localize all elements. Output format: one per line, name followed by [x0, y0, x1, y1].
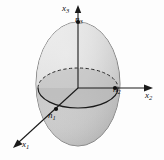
axis-label-x1: x1 [22, 140, 29, 149]
point-label-n1: n1 [48, 111, 56, 120]
point-label-n2: n2 [113, 85, 121, 94]
axis-x3-arrowhead [75, 5, 81, 13]
axis-label-x2: x2 [145, 91, 152, 100]
point-label-n3: n3 [75, 15, 83, 24]
ellipsoid-figure: x3 x2 x1 n3 n2 n1 [0, 0, 164, 160]
axis-label-x3: x3 [62, 4, 69, 13]
